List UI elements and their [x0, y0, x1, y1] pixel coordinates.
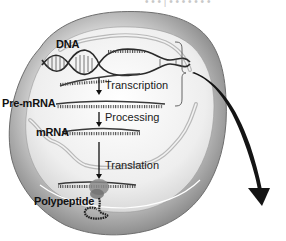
translation-label: Translation — [105, 160, 159, 171]
transcription-label: Transcription — [105, 80, 168, 91]
polypeptide-label: Polypeptide — [34, 196, 94, 207]
pre-mrna-label: Pre-mRNA — [2, 98, 55, 109]
dna-label: DNA — [56, 39, 79, 50]
processing-label: Processing — [105, 112, 159, 123]
mrna-label: mRNA — [36, 127, 69, 138]
